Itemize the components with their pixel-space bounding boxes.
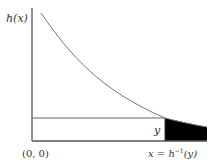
inverse-x-sup: −1	[175, 147, 184, 154]
y-level-label: y	[153, 124, 161, 137]
h-curve	[41, 13, 207, 127]
origin-label: (0, 0)	[22, 148, 49, 159]
y-axis-label: h(x)	[6, 12, 28, 25]
inverse-x-suffix: (y)	[184, 148, 198, 159]
inverse-x-label: x = h−1(y)	[148, 147, 197, 159]
diagram: h(x) (0, 0) y x = h−1(y)	[0, 0, 222, 166]
inverse-x-prefix: x = h	[148, 148, 175, 159]
shaded-tail-region	[165, 118, 207, 141]
